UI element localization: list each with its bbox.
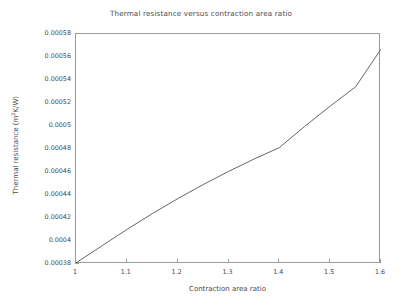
x-axis-tick-label: 1.4 [273,268,283,276]
y-axis-tick-label: 0.00058 [45,29,71,37]
x-axis-tick-label: 1 [73,268,77,276]
y-axis-title-tail: K/W) [12,96,20,113]
y-axis-tick-label: 0.0005 [49,121,71,129]
y-axis-title-exponent: 2 [10,113,16,116]
data-line-series [76,34,381,264]
chart-figure: Thermal resistance versus contraction ar… [0,0,402,302]
x-axis-tick-mark [75,259,76,263]
x-axis-tick-label: 1.2 [172,268,182,276]
x-axis-tick-mark [278,259,279,263]
x-axis-tick-mark [126,259,127,263]
y-axis-tick-label: 0.00044 [45,190,71,198]
x-axis-title: Contraction area ratio [75,285,380,293]
y-axis-tick-label: 0.00056 [45,52,71,60]
y-axis-title-base: Thermal resistance (m [12,116,20,195]
x-axis-tick-mark [177,259,178,263]
x-axis-tick-label: 1.1 [121,268,131,276]
y-axis-tick-label: 0.00046 [45,167,71,175]
y-axis-tick-label: 0.0004 [49,236,71,244]
x-axis-tick-mark [380,259,381,263]
y-axis-title: Thermal resistance (m2K/W) [10,75,20,215]
y-axis-tick-label: 0.00052 [45,98,71,106]
x-axis-tick-mark [228,259,229,263]
y-axis-tick-label: 0.00048 [45,144,71,152]
x-axis-tick-mark [329,259,330,263]
plot-area [75,33,380,263]
x-axis-tick-label: 1.5 [324,268,334,276]
y-axis-tick-label: 0.00054 [45,75,71,83]
x-axis-tick-label: 1.3 [222,268,232,276]
y-axis-tick-label: 0.00042 [45,213,71,221]
y-axis-tick-label: 0.00038 [45,259,71,267]
x-axis-tick-label: 1.6 [375,268,385,276]
